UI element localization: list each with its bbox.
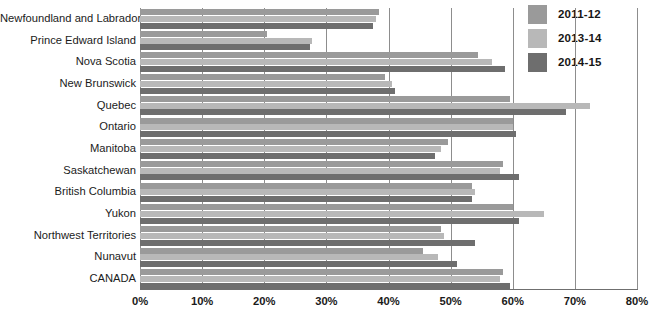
bar <box>140 59 492 65</box>
gridline-70% <box>575 8 576 290</box>
x-tick-label-7: 70% <box>564 295 586 307</box>
bar <box>140 146 441 152</box>
y-axis-category-labels: Newfoundland and LabradorPrince Edward I… <box>0 8 136 290</box>
x-tick-label-2: 20% <box>253 295 275 307</box>
bar <box>140 168 500 174</box>
x-tick-label-5: 50% <box>439 295 461 307</box>
bar <box>140 103 590 109</box>
bar <box>140 183 472 189</box>
bar <box>140 74 385 80</box>
y-axis-label-9: Yukon <box>0 208 136 219</box>
bar <box>140 16 376 22</box>
bar <box>140 109 566 115</box>
bar <box>140 88 395 94</box>
y-axis-label-7: Saskatchewan <box>0 165 136 176</box>
y-axis-label-8: British Columbia <box>0 186 136 197</box>
bar <box>140 269 503 275</box>
bar <box>140 124 513 130</box>
plot-area <box>140 8 637 290</box>
y-axis-label-1: Prince Edward Island <box>0 35 136 46</box>
gridline-80% <box>637 8 638 290</box>
y-axis-label-2: Nova Scotia <box>0 56 136 67</box>
bar <box>140 118 513 124</box>
y-axis-label-6: Manitoba <box>0 143 136 154</box>
x-tick-label-3: 30% <box>315 295 337 307</box>
x-tick-label-0: 0% <box>132 295 148 307</box>
bar <box>140 189 475 195</box>
bar <box>140 248 423 254</box>
bar <box>140 153 435 159</box>
x-axis-line <box>140 289 638 290</box>
x-tick-label-4: 40% <box>377 295 399 307</box>
bar <box>140 261 457 267</box>
gridline-50% <box>451 8 452 290</box>
bar <box>140 276 500 282</box>
bar <box>140 31 267 37</box>
x-tick-label-1: 10% <box>191 295 213 307</box>
bar <box>140 174 519 180</box>
bar <box>140 226 441 232</box>
y-axis-label-5: Ontario <box>0 121 136 132</box>
y-axis-label-11: Nunavut <box>0 251 136 262</box>
bar <box>140 81 392 87</box>
y-axis-label-3: New Brunswick <box>0 78 136 89</box>
bar <box>140 233 444 239</box>
bar <box>140 9 379 15</box>
bar <box>140 204 513 210</box>
x-axis-tick-labels: 0%10%20%30%40%50%60%70%80% <box>0 295 651 315</box>
bar <box>140 196 472 202</box>
bar <box>140 66 505 72</box>
bar <box>140 23 373 29</box>
y-axis-label-0: Newfoundland and Labrador <box>0 13 136 24</box>
bar <box>140 161 503 167</box>
x-tick-label-6: 60% <box>502 295 524 307</box>
bar <box>140 218 519 224</box>
bar <box>140 44 310 50</box>
y-axis-label-12: CANADA <box>0 273 136 284</box>
bar <box>140 96 510 102</box>
bar-chart: 2011-122013-142014-15 Newfoundland and L… <box>0 0 651 332</box>
y-axis-label-4: Quebec <box>0 100 136 111</box>
bar <box>140 211 544 217</box>
y-axis-label-10: Northwest Territories <box>0 230 136 241</box>
bar <box>140 131 516 137</box>
gridline-60% <box>513 8 514 290</box>
bar <box>140 139 448 145</box>
bar <box>140 52 478 58</box>
bar <box>140 240 475 246</box>
bar <box>140 254 438 260</box>
x-tick-label-8: 80% <box>626 295 648 307</box>
bar <box>140 38 312 44</box>
